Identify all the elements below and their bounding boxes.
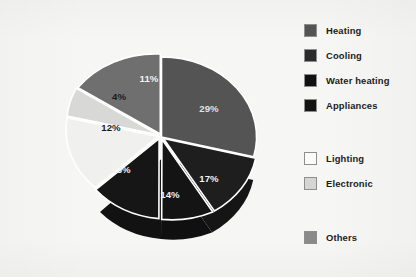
legend-swatch-water-heating: [304, 74, 317, 87]
pie-chart: 29% 17% 14% 13% 12% 4% 11%: [57, 18, 265, 254]
pie-chart-area: 29% 17% 14% 13% 12% 4% 11%: [0, 0, 300, 277]
legend-swatch-heating: [304, 24, 317, 37]
legend-label-electronic: Electronic: [326, 178, 373, 189]
legend-item-lighting[interactable]: Lighting: [304, 146, 373, 171]
legend-group-tertiary: Others: [304, 225, 357, 250]
pie-label-electronic: 4%: [112, 91, 126, 102]
legend-label-lighting: Lighting: [326, 153, 364, 164]
pie-label-lighting: 12%: [101, 122, 121, 133]
legend-label-cooling: Cooling: [326, 50, 362, 61]
legend-group-secondary: Lighting Electronic: [304, 146, 373, 196]
legend-label-heating: Heating: [326, 25, 361, 36]
pie-label-appliances: 13%: [111, 164, 131, 175]
legend-item-heating[interactable]: Heating: [304, 18, 390, 43]
pie-label-cooling: 17%: [199, 173, 219, 184]
pie-label-others: 11%: [140, 73, 159, 84]
chart-legend: Heating Cooling Water heating Appliances…: [296, 0, 416, 277]
legend-label-water-heating: Water heating: [326, 75, 390, 86]
pie-label-water-heating: 14%: [160, 189, 180, 200]
legend-swatch-others: [304, 231, 317, 244]
legend-label-appliances: Appliances: [326, 100, 378, 111]
legend-swatch-electronic: [304, 177, 317, 190]
pie-chart-svg: 29% 17% 14% 13% 12% 4% 11%: [57, 18, 265, 254]
legend-label-others: Others: [326, 232, 357, 243]
chart-page: 29% 17% 14% 13% 12% 4% 11% Heating Cooli: [0, 0, 416, 277]
pie-label-heating: 29%: [199, 103, 219, 114]
legend-item-water-heating[interactable]: Water heating: [304, 68, 390, 93]
legend-item-cooling[interactable]: Cooling: [304, 43, 390, 68]
legend-swatch-appliances: [304, 99, 317, 112]
legend-item-others[interactable]: Others: [304, 225, 357, 250]
legend-item-appliances[interactable]: Appliances: [304, 93, 390, 118]
legend-swatch-cooling: [304, 49, 317, 62]
legend-group-primary: Heating Cooling Water heating Appliances: [304, 18, 390, 118]
legend-swatch-lighting: [304, 152, 317, 165]
legend-item-electronic[interactable]: Electronic: [304, 171, 373, 196]
